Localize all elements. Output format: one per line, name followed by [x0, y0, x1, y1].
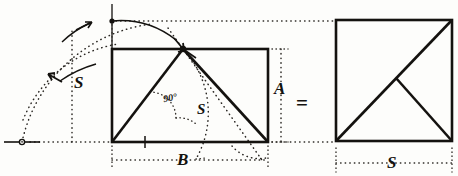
- label-right-side-a: A: [274, 79, 286, 99]
- inner-compass-arc: [23, 44, 118, 120]
- construction-guides: [4, 4, 452, 172]
- label-base-b: B: [177, 150, 189, 170]
- right-corner-arc: [232, 146, 266, 159]
- right-square-group: [336, 20, 452, 141]
- square-inner-leg: [396, 78, 452, 141]
- label-left-height-s: S: [74, 73, 84, 93]
- apex-swing-arc-lower: [196, 158, 205, 159]
- label-square-side-s: S: [387, 153, 397, 173]
- arc-top-point-dot: [109, 18, 114, 23]
- label-equals-sign: =: [296, 91, 308, 116]
- left-rectangle: [112, 49, 268, 142]
- outer-compass-arc: [22, 24, 152, 142]
- geometric-construction-figure: S 90° S B A = S: [0, 0, 458, 176]
- triangle-leg-right: [183, 49, 268, 142]
- figure-canvas: [0, 0, 458, 176]
- label-hypotenuse-s: S: [197, 101, 206, 118]
- right-angle-arc-marker-2: [176, 118, 196, 124]
